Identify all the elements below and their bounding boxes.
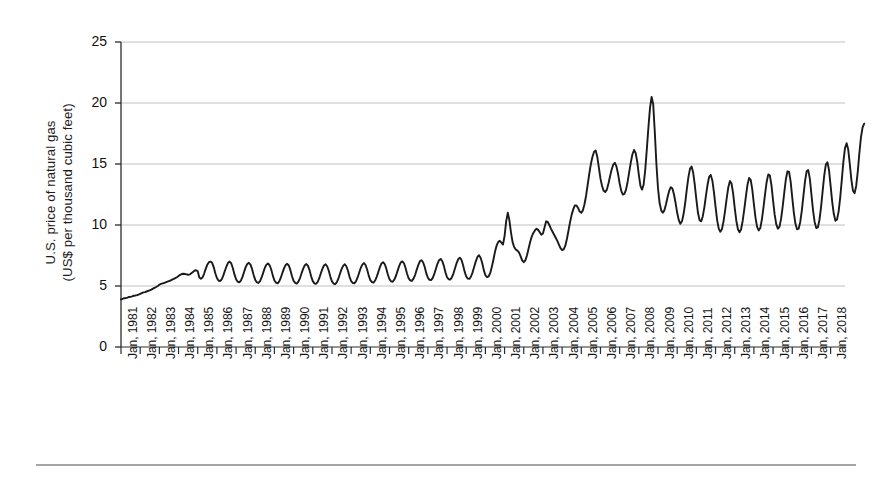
- x-tick-label-10: Jan, 1991: [317, 307, 331, 359]
- y-axis-title: U.S. price of natural gas (US$ per thous…: [28, 36, 90, 348]
- x-tick-label-24: Jan, 2005: [586, 307, 600, 359]
- x-tick-label-1: Jan, 1982: [145, 307, 159, 359]
- y-tick-label-25: 25: [73, 33, 107, 49]
- x-tick-label-11: Jan, 1992: [336, 307, 350, 359]
- x-tick-label-29: Jan, 2010: [682, 307, 696, 359]
- y-tick-label-20: 20: [73, 94, 107, 110]
- x-tick-label-2: Jan, 1983: [164, 307, 178, 359]
- x-tick-label-8: Jan, 1989: [279, 307, 293, 359]
- x-tick-label-22: Jan, 2003: [547, 307, 561, 359]
- x-tick-label-19: Jan, 2000: [490, 307, 504, 359]
- x-tick-label-6: Jan, 1987: [241, 307, 255, 359]
- x-tick-label-26: Jan, 2007: [624, 307, 638, 359]
- x-tick-label-16: Jan, 1997: [432, 307, 446, 359]
- x-tick-label-4: Jan, 1985: [202, 307, 216, 359]
- y-axis-title-line-2: (US$ per thousand cubic feet): [59, 103, 76, 281]
- y-tick-label-10: 10: [73, 216, 107, 232]
- gridlines-group: [121, 42, 845, 347]
- y-tick-label-0: 0: [73, 338, 107, 354]
- natural-gas-price-line-chart: [0, 0, 884, 482]
- y-axis-title-line-1: U.S. price of natural gas: [42, 103, 59, 281]
- y-tick-marks-group: [115, 42, 121, 347]
- price-series-line: [121, 97, 864, 300]
- x-tick-label-21: Jan, 2002: [528, 307, 542, 359]
- x-tick-label-28: Jan, 2009: [663, 307, 677, 359]
- x-tick-label-32: Jan, 2013: [739, 307, 753, 359]
- x-tick-label-37: Jan, 2018: [835, 307, 849, 359]
- x-tick-label-7: Jan, 1988: [260, 307, 274, 359]
- x-tick-label-20: Jan, 2001: [509, 307, 523, 359]
- x-tick-label-9: Jan, 1990: [298, 307, 312, 359]
- x-tick-label-12: Jan, 1993: [356, 307, 370, 359]
- x-tick-label-3: Jan, 1984: [183, 307, 197, 359]
- x-tick-label-34: Jan, 2015: [778, 307, 792, 359]
- y-tick-label-15: 15: [73, 155, 107, 171]
- figure-container: U.S. price of natural gas (US$ per thous…: [0, 0, 884, 482]
- x-tick-label-13: Jan, 1994: [375, 307, 389, 359]
- x-tick-label-5: Jan, 1986: [221, 307, 235, 359]
- x-tick-label-33: Jan, 2014: [758, 307, 772, 359]
- x-tick-label-30: Jan, 2011: [701, 308, 715, 359]
- y-tick-label-5: 5: [73, 277, 107, 293]
- x-tick-label-31: Jan, 2012: [720, 307, 734, 359]
- x-tick-label-35: Jan, 2016: [797, 307, 811, 359]
- x-tick-label-23: Jan, 2004: [567, 307, 581, 359]
- x-tick-label-0: Jan, 1981: [126, 307, 140, 359]
- x-tick-label-27: Jan, 2008: [643, 307, 657, 359]
- x-tick-label-17: Jan, 1998: [452, 307, 466, 359]
- x-tick-label-15: Jan, 1996: [413, 307, 427, 359]
- x-tick-label-25: Jan, 2006: [605, 307, 619, 359]
- x-tick-label-36: Jan, 2017: [816, 307, 830, 359]
- x-tick-label-18: Jan, 1999: [471, 307, 485, 359]
- x-tick-label-14: Jan, 1995: [394, 307, 408, 359]
